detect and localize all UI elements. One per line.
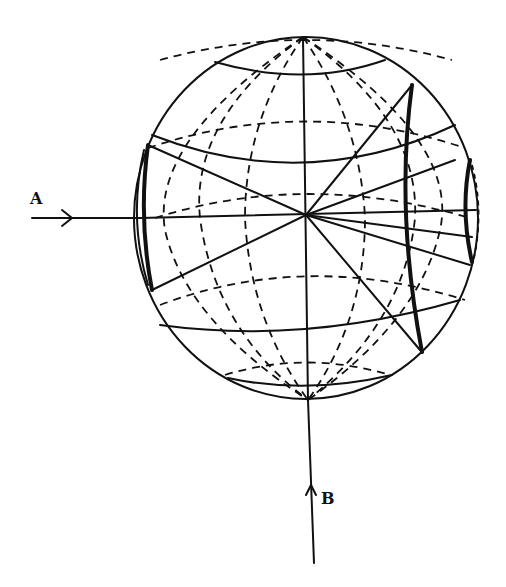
label-b: B (321, 489, 335, 508)
sphere-diagram: A B (0, 0, 506, 587)
ray-b (306, 400, 316, 563)
ray-a (32, 210, 140, 226)
polar-axis (303, 37, 308, 400)
label-a: A (29, 189, 43, 208)
